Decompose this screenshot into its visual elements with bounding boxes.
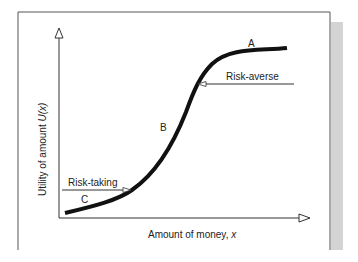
- risk-taking-label: Risk-taking: [68, 177, 117, 188]
- risk-averse-label: Risk-averse: [226, 71, 279, 82]
- point-label-a: A: [248, 38, 255, 49]
- y-axis-label: Utility of amount U(x): [37, 103, 48, 196]
- point-label-b: B: [160, 122, 167, 133]
- utility-curve-diagram: A B C Risk-averse Risk-taking Amount of …: [0, 0, 358, 262]
- risk-taking-arrow: [62, 188, 131, 193]
- y-axis-arrow-icon: [55, 28, 63, 38]
- x-axis: [59, 214, 310, 222]
- y-axis: [55, 28, 63, 218]
- risk-averse-arrow: [198, 82, 294, 87]
- point-label-c: C: [81, 194, 88, 205]
- x-axis-label: Amount of money, x: [148, 229, 237, 240]
- x-axis-arrow-icon: [299, 214, 310, 222]
